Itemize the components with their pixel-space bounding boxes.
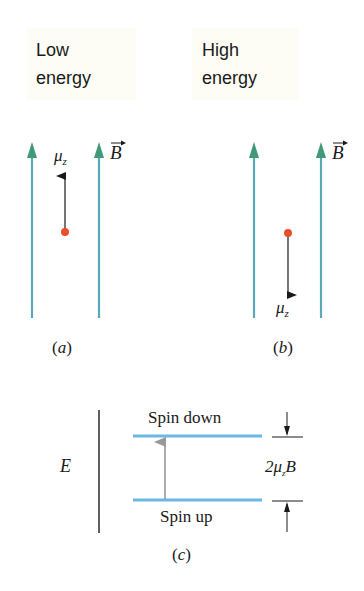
panel-b-moment-label: μz (276, 298, 289, 318)
panel-a-moment-arrow (61, 176, 69, 236)
panel-b-moment-arrow (284, 229, 292, 295)
mu-subscript: z (63, 155, 67, 167)
gap-subscript: z (282, 468, 286, 478)
particle-dot (284, 229, 292, 237)
diagram-graphics (0, 0, 364, 591)
mu-symbol: μ (54, 146, 63, 165)
energy-axis-label: E (60, 456, 71, 477)
panel-b-field-label: B (332, 142, 344, 164)
spin-up-label: Spin up (160, 507, 212, 527)
gap-prefix: 2μ (265, 457, 282, 476)
panel-a-field-label: B (110, 142, 122, 164)
gap-energy-label: 2μzB (265, 457, 296, 477)
field-arrowhead-icon (249, 142, 259, 158)
spin-energy-diagram: Low energy High energy (0, 0, 364, 591)
panel-b-caption: (b) (273, 338, 293, 358)
panel-c-energy-levels (133, 436, 262, 500)
spin-down-label: Spin down (148, 408, 221, 428)
mu-subscript: z (285, 307, 289, 319)
panel-c-caption: (c) (172, 545, 191, 565)
field-arrowhead-icon (27, 142, 37, 158)
panel-a-caption: (a) (52, 338, 72, 358)
panel-a-moment-label: μz (54, 146, 67, 166)
panel-b-caption-letter: b (279, 338, 288, 357)
panel-a-caption-letter: a (58, 338, 67, 357)
field-arrowhead-icon (94, 142, 104, 158)
mu-symbol: μ (276, 298, 285, 317)
dimension-arrow-up-icon (284, 502, 290, 512)
field-arrowhead-icon (316, 142, 326, 158)
gap-suffix: B (286, 457, 296, 476)
particle-dot (61, 228, 69, 236)
dimension-arrow-down-icon (284, 426, 290, 436)
